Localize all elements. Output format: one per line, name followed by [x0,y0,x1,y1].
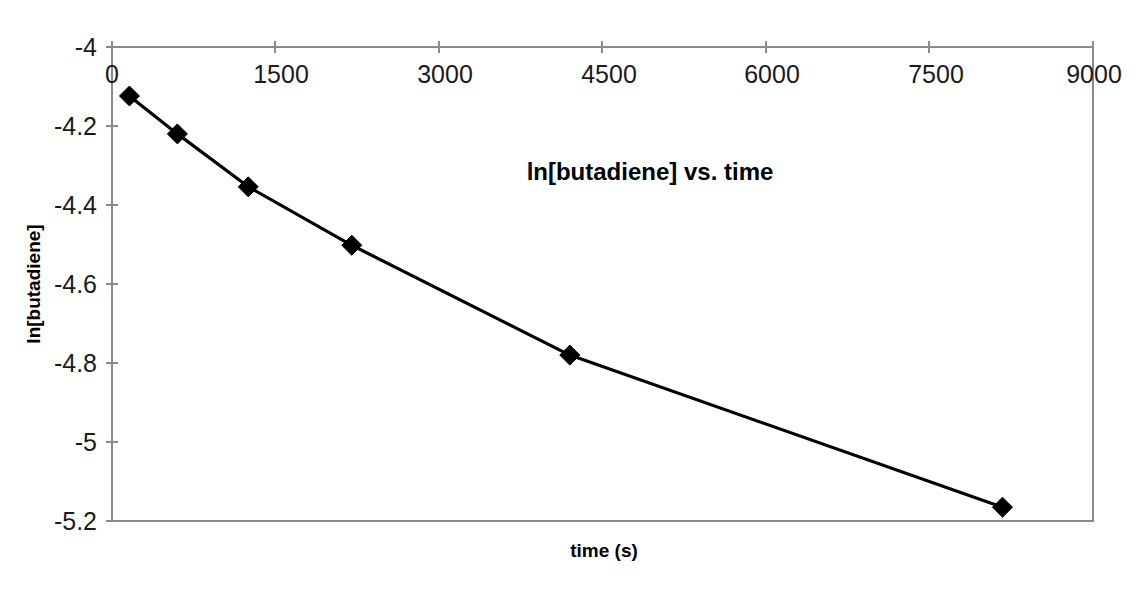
x-tick-label-6: 9000 [1066,60,1122,88]
x-tick-label-4: 6000 [744,60,800,88]
y-tick-label-1: -4.2 [54,112,97,140]
series-markers [119,86,1012,517]
x-axis-title: time (s) [570,540,638,561]
y-tick-label-2: -4.4 [54,191,97,219]
y-tick-label-6: -5.2 [54,507,97,535]
x-tick-label-0: 0 [105,60,119,88]
y-tick-label-3: -4.6 [54,270,97,298]
x-tick-label-5: 7500 [908,60,964,88]
data-point-marker [993,497,1013,517]
x-tick-label-2: 3000 [417,60,473,88]
data-point-marker [560,345,580,365]
line-chart: 0 1500 3000 4500 6000 7500 9000 -4 -4.2 … [0,0,1136,596]
plot-area-border [112,47,1093,521]
y-axis-title: ln[butadiene] [23,224,44,343]
y-tick-label-0: -4 [75,33,97,61]
data-point-marker [342,235,362,255]
x-tick-label-3: 4500 [581,60,637,88]
chart-container: 0 1500 3000 4500 6000 7500 9000 -4 -4.2 … [0,0,1136,596]
data-series-group [119,86,1012,517]
y-tick-label-5: -5 [75,428,97,456]
y-tick-labels: -4 -4.2 -4.4 -4.6 -4.8 -5 -5.2 [54,33,97,535]
chart-title: ln[butadiene] vs. time [527,158,774,185]
x-tick-labels: 0 1500 3000 4500 6000 7500 9000 [105,60,1122,88]
x-tick-label-1: 1500 [253,60,309,88]
y-tick-label-4: -4.8 [54,349,97,377]
